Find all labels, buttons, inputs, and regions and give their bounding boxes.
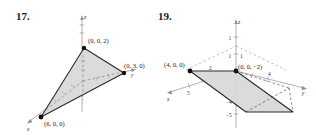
triangle-plane [41,48,124,117]
z-axis-label: z [237,19,241,25]
vertex-point-z [82,46,86,50]
z-tick-label-minus5: −5 [226,112,232,118]
parallelogram-plane [190,71,293,112]
z-tick-label-1: 1 [229,35,232,41]
figure-17: 17. z y x [0,0,158,135]
figure-17-plot: z y x [0,0,158,135]
figure-pair-container: 17. z y x [0,0,316,135]
vertex-point-x [39,115,44,120]
vertex-label-x4: (4, 0, 0) [164,61,185,69]
vertex-label-y: (0, 3, 0) [124,62,145,70]
x-axis-label: x [26,126,30,132]
x-tick-label-5: 5 [187,90,190,96]
x-tick-label-2: 2 [209,65,212,71]
figure-19: 19. z 1 1 1 −3 −4 −5 y 4 [158,0,316,135]
y-axis-label: y [130,72,134,78]
y-tick-label-4: 4 [268,71,271,77]
x-axis-label: x [166,96,170,102]
vertex-point-x4 [188,69,193,74]
near-origin-tick-right: 1 [240,53,243,59]
y-axis-label: y [301,90,305,96]
x-axis-arrowhead [167,90,172,94]
figure-19-plot: z 1 1 1 −3 −4 −5 y 4 x [158,0,316,135]
vertex-label-zminus2: (0, 0, −2) [238,63,262,71]
z-axis-label: z [83,14,87,20]
near-origin-tick-left: 1 [229,53,232,59]
vertex-label-x: (6, 0, 0) [44,120,65,128]
vertex-point-y [122,71,126,75]
vertex-label-z: (0, 0, 2) [88,37,109,45]
